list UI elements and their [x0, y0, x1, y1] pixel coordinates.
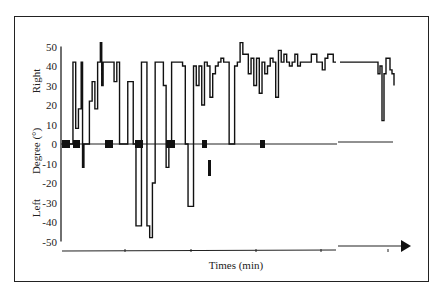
zero-marker — [166, 140, 175, 148]
y-tick-label: -30 — [42, 197, 57, 209]
dip-marker — [208, 160, 211, 176]
series-line-1 — [62, 43, 336, 238]
y-tick-label: 50 — [46, 41, 58, 53]
series-line-2 — [340, 58, 394, 120]
y-tick-label: 10 — [46, 119, 58, 131]
zero-marker — [202, 140, 207, 148]
y-tick-label: -50 — [42, 236, 57, 248]
y-axis-label: Degree (°) — [30, 128, 43, 175]
y-tick-label: -10 — [42, 158, 57, 170]
y-label-right: Right — [30, 69, 42, 93]
line-chart: 50403020100-10-20-30-40-50RightDegree (°… — [0, 0, 441, 294]
x-axis-label-text: Times (min) — [209, 259, 264, 272]
y-tick-label: 30 — [46, 80, 58, 92]
zero-marker — [73, 140, 80, 148]
zero-marker — [135, 140, 143, 148]
x-axis — [62, 250, 336, 251]
zero-marker — [62, 140, 70, 148]
y-tick-label: 20 — [46, 99, 58, 111]
x-axis-arrow-icon — [401, 240, 411, 252]
y-tick-label: 0 — [52, 138, 58, 150]
zero-marker — [105, 140, 113, 148]
zero-marker — [260, 140, 265, 148]
y-tick-label: 40 — [46, 60, 58, 72]
y-tick-label: -20 — [42, 177, 57, 189]
y-label-left: Left — [30, 199, 42, 217]
y-tick-label: -40 — [42, 216, 57, 228]
